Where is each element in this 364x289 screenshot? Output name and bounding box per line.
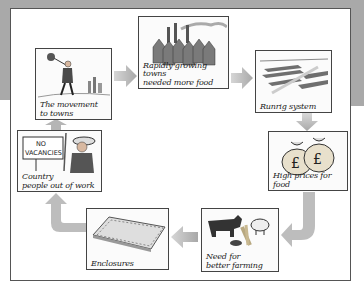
svg-text:£: £ (313, 151, 322, 167)
node-enclosures: Enclosures (86, 208, 169, 270)
man-walking-icon (38, 51, 109, 99)
money-bags-icon: £ £ (271, 134, 345, 174)
svg-text:VACANCIES: VACANCIES (25, 149, 62, 157)
caption-line-2: people out of work (22, 182, 99, 191)
enclosed-field-icon (89, 211, 166, 253)
caption: High prices for food (273, 172, 345, 189)
node-movement-to-towns: The movementto towns (35, 48, 112, 120)
caption: Enclosures (91, 260, 166, 269)
svg-text:£: £ (291, 155, 300, 171)
arrow-prices-to-farming (281, 192, 315, 247)
field-strips-icon (258, 53, 329, 96)
node-runrig-system: Runrig system (255, 50, 332, 113)
livestock-icon (204, 211, 276, 251)
arrow-towns-to-runrig (231, 67, 253, 89)
no-vacancies-sign-icon: NO VACANCIES (20, 133, 99, 171)
node-growing-towns: Rapidly growing townsneeded more food (138, 16, 229, 89)
svg-text:NO: NO (36, 140, 46, 148)
caption-line-2: needed more food (143, 79, 226, 88)
node-better-farming: Need forbetter farming (201, 208, 279, 272)
caption-line-2: to towns (40, 110, 109, 119)
arrow-enclosures-to-country (45, 193, 86, 232)
arrow-country-to-movement (45, 119, 67, 130)
arrow-runrig-to-prices (296, 113, 318, 131)
node-high-prices: £ £ High prices for food (268, 131, 348, 191)
arrow-movement-to-towns (114, 65, 137, 87)
caption: Runrig system (260, 103, 329, 112)
node-country-people: NO VACANCIES Countrypeople out of work (17, 130, 102, 192)
caption-line-1: Rapidly growing towns (143, 62, 226, 79)
caption-line-2: better farming (206, 262, 276, 271)
arrow-farming-to-enclosures (171, 226, 198, 248)
